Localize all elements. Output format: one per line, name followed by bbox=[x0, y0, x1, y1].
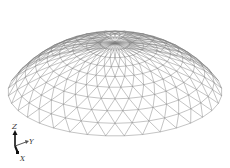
x-axis-marker-icon bbox=[16, 151, 19, 154]
coordinate-axes-triad: Z Y X bbox=[11, 123, 35, 163]
y-axis-label: Y bbox=[29, 138, 35, 146]
dome-members bbox=[8, 31, 221, 136]
y-axis-arrow-icon bbox=[15, 142, 26, 146]
z-axis-label: Z bbox=[11, 123, 17, 131]
x-axis-label: X bbox=[19, 155, 26, 163]
dome-figure: Z Y X bbox=[0, 0, 230, 168]
lattice-dome-wireframe bbox=[8, 31, 221, 136]
